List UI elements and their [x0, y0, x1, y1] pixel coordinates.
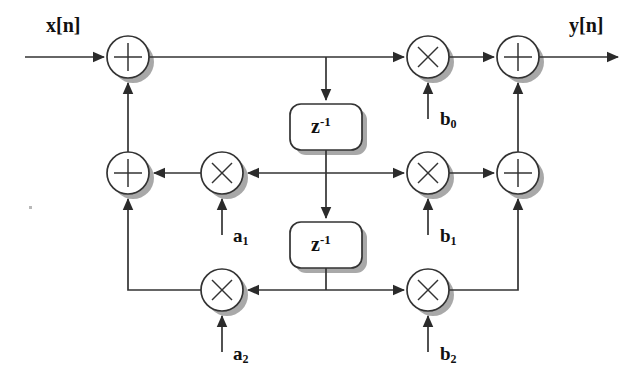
signal-flow-diagram: x[n] y[n] z-1 z-1 a1 a2 b0 b1 b2	[0, 0, 643, 383]
coefficient-b0-subscript: 0	[451, 117, 457, 131]
coefficient-b2-subscript: 2	[451, 352, 457, 366]
coefficient-a2-subscript: 2	[243, 352, 249, 366]
coefficient-b2-base: b	[440, 343, 451, 364]
delay-1-base: z	[311, 115, 320, 137]
coefficient-b2-label: b2	[440, 343, 457, 367]
diagram-canvas	[0, 0, 643, 383]
delay-1-label: z-1	[311, 114, 331, 138]
coefficient-a2-label: a2	[233, 343, 249, 367]
delay-2-label: z-1	[311, 232, 331, 256]
scan-artifact-speck	[29, 206, 32, 209]
coefficient-b1-subscript: 1	[451, 234, 457, 248]
coefficient-a1-base: a	[233, 225, 243, 246]
coefficient-a1-subscript: 1	[243, 234, 249, 248]
node-shadows	[112, 41, 544, 316]
delay-1-exponent: -1	[320, 114, 331, 129]
coefficient-a2-base: a	[233, 343, 243, 364]
output-label: y[n]	[569, 14, 603, 37]
delay-2-exponent: -1	[320, 232, 331, 247]
input-label: x[n]	[46, 14, 80, 37]
coefficient-b1-base: b	[440, 225, 451, 246]
signal-wires	[25, 57, 618, 352]
coefficient-b0-base: b	[440, 108, 451, 129]
coefficient-b0-label: b0	[440, 108, 457, 132]
coefficient-a1-label: a1	[233, 225, 249, 249]
wire-b2-to-right-rail	[449, 199, 518, 290]
coefficient-b1-label: b1	[440, 225, 457, 249]
delay-2-base: z	[311, 233, 320, 255]
wire-a2-feedback	[128, 199, 201, 290]
